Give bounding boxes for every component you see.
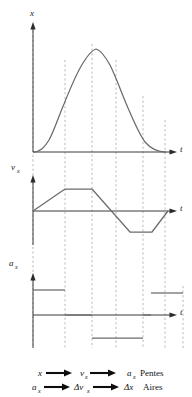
- legend-slopes-arrowhead-1: [64, 370, 72, 377]
- plot-acceleration: a x t: [9, 258, 183, 348]
- velocity-x-axis-label: t: [180, 203, 183, 213]
- legend-slopes-term-3-sub: x: [132, 374, 136, 380]
- velocity-x-axis-arrowhead: [170, 208, 178, 213]
- legend-areas-term-1-sub: x: [37, 388, 41, 394]
- velocity-y-axis-label: v: [11, 162, 15, 172]
- acceleration-steps: [33, 290, 183, 338]
- legend-areas-note: Aires: [143, 382, 163, 392]
- position-y-axis-arrowhead: [30, 22, 35, 30]
- legend-slopes-term-2: v: [80, 368, 84, 378]
- velocity-y-axis-label-sub: x: [16, 168, 20, 174]
- legend-slopes-term-1: x: [37, 368, 42, 378]
- legend-areas-arrowhead-1: [62, 384, 70, 391]
- legend-slopes-term-3: a: [127, 368, 132, 378]
- legend-slopes-note: Pentes: [140, 368, 164, 378]
- legend-areas-term-2-sub: x: [86, 388, 90, 394]
- position-x-axis-label: t: [180, 144, 183, 154]
- gridlines: [33, 26, 183, 348]
- legend-row-areas: a x Δv x Δx Aires: [32, 382, 163, 394]
- acceleration-y-axis-label: a: [9, 258, 14, 268]
- position-x-axis-arrowhead: [170, 149, 178, 154]
- position-y-axis-label: x: [29, 8, 34, 18]
- plot-position: x t: [29, 8, 183, 155]
- position-curve: [33, 49, 166, 152]
- kinematics-figure: x t v x t a x t x v: [0, 0, 192, 397]
- acceleration-y-axis-arrowhead: [30, 273, 35, 281]
- legend-slopes-term-2-sub: x: [84, 374, 88, 380]
- legend-row-slopes: x v x a x Pentes: [37, 368, 164, 380]
- legend-areas-term-3: Δx: [123, 382, 133, 392]
- legend-slopes-arrowhead-2: [108, 370, 116, 377]
- legend-areas-term-1: a: [32, 382, 37, 392]
- legend-areas-arrowhead-2: [111, 384, 119, 391]
- acceleration-y-axis-label-sub: x: [14, 264, 18, 270]
- acceleration-x-axis-arrowhead: [170, 312, 178, 317]
- velocity-y-axis-arrowhead: [30, 175, 35, 183]
- plot-velocity: v x t: [11, 162, 183, 245]
- legend-areas-term-2: Δv: [73, 382, 83, 392]
